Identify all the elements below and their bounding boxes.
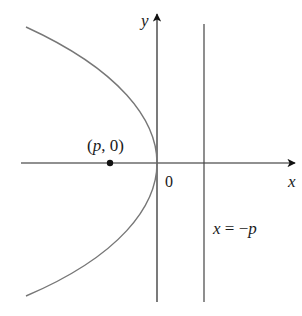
x-axis-label: x	[287, 172, 296, 191]
directrix-label: x = −p	[212, 219, 257, 238]
focus-label-rest: , 0)	[101, 136, 124, 155]
parabola-curve	[26, 27, 157, 296]
parabola-diagram: y x 0 (p, 0) x = −p	[0, 0, 302, 316]
focus-label-p: p	[92, 136, 102, 155]
y-axis-label: y	[139, 11, 149, 30]
focus-label: (p, 0)	[87, 136, 124, 155]
origin-label: 0	[165, 173, 173, 190]
focus-point	[107, 160, 113, 166]
directrix-label-p: p	[247, 219, 257, 238]
directrix-label-eq: = −	[221, 219, 249, 238]
